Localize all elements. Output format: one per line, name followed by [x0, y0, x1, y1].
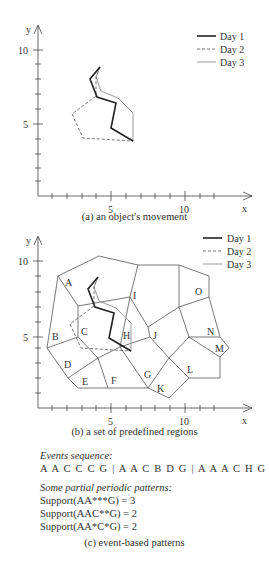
region-label-m: M [215, 343, 224, 354]
region-label-l: L [187, 364, 193, 375]
legend-day2-label: Day 2 [220, 44, 244, 55]
region-label-a: A [65, 277, 73, 288]
region-boundaries [47, 256, 229, 398]
y-tick-label-5: 5 [23, 119, 28, 130]
legend-day3-label: Day 3 [227, 259, 251, 270]
region-label-n: N [207, 326, 214, 337]
region-label-g: G [144, 369, 151, 380]
region-label-i: I [133, 290, 136, 301]
region-label-e: E [82, 376, 88, 387]
events-title: Events sequence: [40, 449, 266, 462]
events-sequence: A A C C C G | A A C B D G | A A A C H G [40, 462, 266, 475]
pattern-item: Support(AAC**G) = 2 [40, 507, 266, 520]
region-label-f: F [111, 375, 117, 386]
y-axis-label: y [26, 235, 31, 246]
legend-a: Day 1 Day 2 Day 3 [197, 31, 244, 68]
region-label-b: B [52, 331, 59, 342]
region-label-j: J [153, 330, 157, 341]
region-label-d: D [64, 359, 71, 370]
y-tick-label-10: 10 [18, 256, 28, 267]
legend-day1-label: Day 1 [227, 233, 251, 244]
y-tick-label-5: 5 [23, 332, 28, 343]
legend-day2-label: Day 2 [227, 246, 251, 257]
region-label-h: H [123, 330, 130, 341]
pattern-item: Support(AA*C*G) = 2 [40, 520, 266, 533]
legend-b: Day 1 Day 2 Day 3 [203, 233, 251, 270]
legend-day3-label: Day 3 [220, 57, 244, 68]
axes-b [33, 236, 252, 413]
x-axis-label: x [242, 415, 247, 426]
region-label-o: O [195, 286, 202, 297]
figure-b: y 10 5 5 10 x [18, 233, 252, 427]
figure-a: y 10 5 5 10 x Day 1 Day 2 Day 3 [18, 24, 252, 215]
legend-day1-label: Day 1 [220, 31, 244, 42]
y-tick-label-10: 10 [18, 45, 28, 56]
outer-boundary [47, 256, 229, 398]
caption-b: (b) a set of predefined regions [0, 426, 269, 437]
y-axis-label: y [26, 24, 31, 35]
caption-a: (a) an object's movement [0, 211, 269, 222]
events-block: Events sequence: A A C C C G | A A C B D… [40, 449, 266, 533]
region-label-c: C [81, 326, 88, 337]
region-label-k: K [157, 383, 165, 394]
pattern-item: Support(AA***G) = 3 [40, 494, 266, 507]
patterns-title: Some partial periodic patterns: [40, 481, 266, 494]
caption-c: (c) event-based patterns [0, 537, 269, 548]
